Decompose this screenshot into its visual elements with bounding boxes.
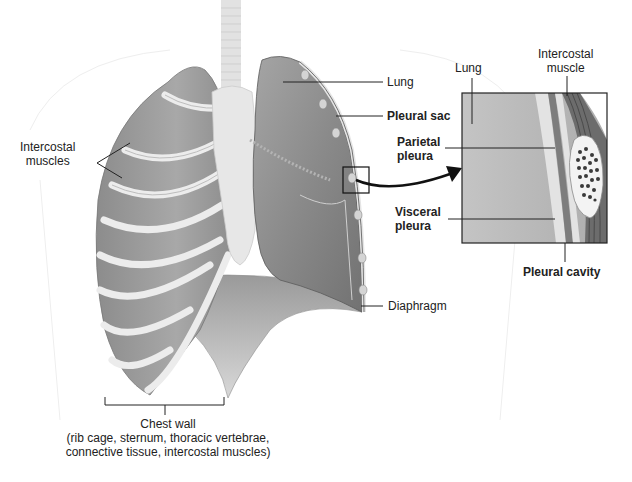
label-line: Intercostal [20,140,75,154]
diaphragm-label: Diaphragm [388,299,447,313]
label-line: Intercostal [538,47,593,61]
label-line: Visceral [395,205,441,219]
label-line: muscle [538,61,593,75]
inset-detail [462,93,607,243]
intercostal-muscle-label: Intercostal muscle [538,47,593,75]
label-line: Chest wall [48,417,288,431]
lung-label: Lung [387,75,414,89]
pleural-cavity-label: Pleural cavity [523,265,600,279]
visceral-pleura-label: Visceral pleura [395,205,441,233]
label-line: connective tissue, intercostal muscles) [48,445,288,459]
chest-wall-label: Chest wall (rib cage, sternum, thoracic … [48,417,288,459]
intercostal-muscles-label: Intercostal muscles [20,140,75,168]
lung [253,56,362,312]
zoom-arrow [356,174,450,186]
label-line: pleura [395,219,441,233]
label-line: Parietal [397,135,440,149]
parietal-pleura-label: Parietal pleura [397,135,440,163]
pleural-sac-label: Pleural sac [387,109,450,123]
inset-lung-label: Lung [455,61,482,75]
label-line: pleura [397,149,440,163]
label-line: muscles [20,154,75,168]
pleura-diagram: Intercostal muscles Lung Pleural sac Par… [0,0,632,482]
label-line: (rib cage, sternum, thoracic vertebrae, [48,431,288,445]
